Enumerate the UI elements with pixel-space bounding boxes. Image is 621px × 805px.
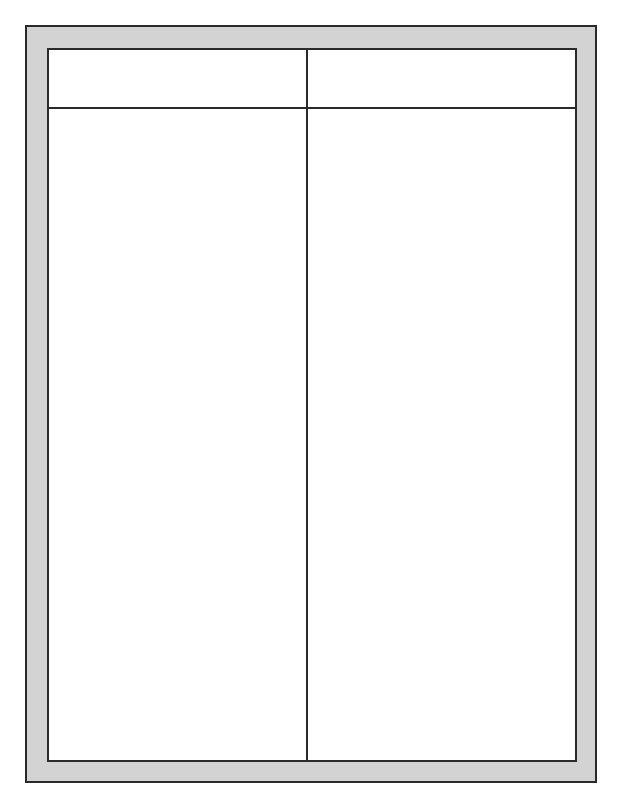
right-column-heading[interactable] — [308, 50, 575, 107]
t-chart — [47, 48, 577, 762]
left-column-heading[interactable] — [49, 50, 306, 107]
right-column-body[interactable] — [308, 109, 575, 760]
left-column-body[interactable] — [49, 109, 306, 760]
